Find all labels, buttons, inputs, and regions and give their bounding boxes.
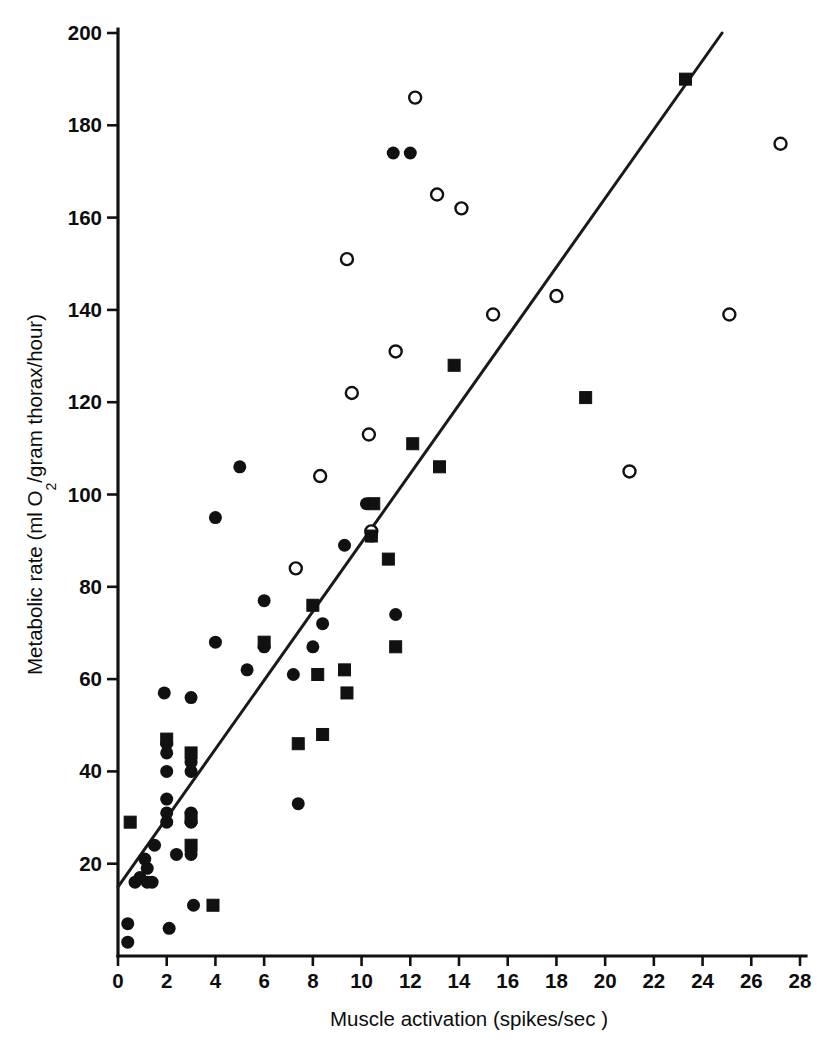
point-filled-circle-38: [387, 146, 400, 159]
y-axis-title-subscript: 2: [43, 482, 59, 490]
point-filled-circle-35: [338, 539, 351, 552]
point-filled-circle-31: [287, 668, 300, 681]
point-filled-circle-25: [209, 511, 222, 524]
point-filled-square-21: [680, 73, 692, 85]
point-open-circle-8: [431, 189, 443, 201]
x-tick-label-2: 2: [161, 969, 172, 992]
point-filled-circle-33: [306, 640, 319, 653]
x-tick-label-22: 22: [642, 969, 665, 992]
y-tick-label-80: 80: [79, 575, 102, 598]
x-axis-title: Muscle activation (spikes/sec ): [330, 1007, 608, 1030]
point-filled-circle-9: [158, 686, 171, 699]
y-tick-label-140: 140: [68, 298, 102, 321]
point-filled-circle-1: [121, 936, 134, 949]
point-open-circle-2: [341, 253, 353, 265]
point-filled-circle-17: [170, 848, 183, 861]
y-tick-label-60: 60: [79, 667, 102, 690]
regression-line: [118, 33, 722, 887]
x-tick-label-14: 14: [448, 969, 471, 992]
point-open-circle-9: [455, 202, 467, 214]
point-open-circle-12: [624, 465, 636, 477]
chart-figure: 2040608010012014016018020002468101214161…: [0, 0, 836, 1050]
point-open-circle-0: [290, 562, 302, 574]
point-filled-circle-24: [187, 899, 200, 912]
x-tick-label-4: 4: [210, 969, 222, 992]
point-filled-circle-13: [160, 793, 173, 806]
point-filled-circle-28: [241, 663, 254, 676]
point-filled-circle-18: [185, 691, 198, 704]
point-filled-square-10: [317, 728, 329, 740]
point-filled-square-19: [448, 359, 460, 371]
point-filled-square-13: [365, 530, 377, 542]
point-filled-circle-29: [258, 594, 271, 607]
point-filled-square-11: [339, 664, 351, 676]
point-filled-square-12: [341, 687, 353, 699]
x-tick-label-26: 26: [740, 969, 763, 992]
x-tick-label-16: 16: [496, 969, 519, 992]
point-filled-square-1: [161, 733, 173, 745]
point-filled-circle-20: [185, 765, 198, 778]
y-tick-label-180: 180: [68, 113, 102, 136]
point-filled-square-7: [292, 738, 304, 750]
point-open-circle-14: [775, 138, 787, 150]
point-filled-square-2: [185, 747, 197, 759]
point-open-circle-11: [550, 290, 562, 302]
y-tick-label-20: 20: [79, 852, 102, 875]
y-tick-label-120: 120: [68, 390, 102, 413]
point-filled-circle-32: [292, 797, 305, 810]
point-filled-square-6: [258, 636, 270, 648]
y-tick-label-40: 40: [79, 759, 102, 782]
x-tick-label-24: 24: [691, 969, 714, 992]
point-filled-circle-34: [316, 617, 329, 630]
point-filled-square-18: [434, 461, 446, 473]
point-filled-square-0: [124, 816, 136, 828]
point-filled-circle-0: [121, 917, 134, 930]
point-filled-square-8: [307, 599, 319, 611]
point-filled-square-5: [207, 899, 219, 911]
x-tick-label-0: 0: [112, 969, 123, 992]
x-tick-label-8: 8: [307, 969, 318, 992]
x-tick-label-6: 6: [258, 969, 269, 992]
scatter-plot: 2040608010012014016018020002468101214161…: [0, 0, 836, 1050]
point-filled-circle-40: [404, 146, 417, 159]
point-filled-circle-7: [146, 876, 159, 889]
point-filled-circle-15: [160, 816, 173, 829]
y-tick-label-200: 200: [68, 21, 102, 44]
point-filled-circle-11: [160, 746, 173, 759]
point-filled-circle-16: [163, 922, 176, 935]
series-filled-circle: [121, 146, 417, 948]
point-open-circle-7: [409, 92, 421, 104]
point-open-circle-6: [390, 345, 402, 357]
point-filled-circle-5: [141, 862, 154, 875]
point-open-circle-4: [363, 429, 375, 441]
y-tick-label-160: 160: [68, 206, 102, 229]
point-filled-circle-27: [233, 460, 246, 473]
point-open-circle-3: [346, 387, 358, 399]
point-filled-square-20: [580, 392, 592, 404]
point-open-circle-13: [723, 309, 735, 321]
point-filled-square-14: [368, 498, 380, 510]
point-open-circle-10: [487, 309, 499, 321]
point-filled-circle-39: [389, 608, 402, 621]
point-filled-square-9: [312, 668, 324, 680]
point-filled-circle-12: [160, 765, 173, 778]
point-filled-square-4: [185, 839, 197, 851]
x-tick-label-18: 18: [545, 969, 568, 992]
point-filled-square-16: [390, 641, 402, 653]
y-tick-label-100: 100: [68, 483, 102, 506]
x-tick-label-10: 10: [350, 969, 373, 992]
y-axis-title-lead: Metabolic rate (ml O: [23, 490, 46, 675]
y-axis-title-tail: /gram thorax/hour): [23, 314, 46, 483]
point-filled-square-15: [382, 553, 394, 565]
point-filled-circle-8: [148, 839, 161, 852]
point-filled-circle-26: [209, 636, 222, 649]
point-open-circle-1: [314, 470, 326, 482]
point-filled-square-17: [407, 438, 419, 450]
x-tick-label-28: 28: [789, 969, 812, 992]
y-axis-title: Metabolic rate (ml O2/gram thorax/hour): [23, 314, 59, 675]
x-tick-label-20: 20: [594, 969, 617, 992]
x-tick-label-12: 12: [399, 969, 422, 992]
point-filled-square-3: [185, 812, 197, 824]
